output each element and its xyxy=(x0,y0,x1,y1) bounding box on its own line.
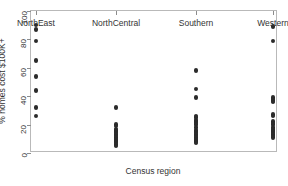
data-point xyxy=(34,114,39,119)
data-point xyxy=(271,135,276,140)
data-point xyxy=(34,39,39,44)
y-axis-title: % homes cost $100K+ xyxy=(0,38,7,123)
data-point xyxy=(194,141,199,146)
data-point xyxy=(271,100,276,105)
x-tick-label: Southern xyxy=(179,18,214,28)
x-tick-label: NorthCentral xyxy=(92,18,140,28)
dotplot-figure: 020406080100 NorthEastNorthCentralSouthe… xyxy=(0,0,288,186)
plot-area: 020406080100 NorthEastNorthCentralSouthe… xyxy=(30,10,277,152)
x-tick-mark xyxy=(36,11,37,15)
data-point xyxy=(271,39,276,44)
data-point xyxy=(194,68,199,73)
data-point xyxy=(114,105,119,110)
y-tick-label: 0 xyxy=(20,153,29,157)
y-tick-label: 80 xyxy=(20,39,29,48)
data-point xyxy=(194,95,199,100)
data-point xyxy=(114,144,119,149)
data-point xyxy=(34,105,39,110)
data-points-layer xyxy=(31,11,276,151)
x-tick-label: Western xyxy=(257,18,288,28)
y-tick-label: 20 xyxy=(20,125,29,134)
x-tick-mark xyxy=(273,11,274,15)
x-axis-title: Census region xyxy=(126,166,181,176)
y-tick-label: 40 xyxy=(20,96,29,105)
x-tick-mark xyxy=(116,11,117,15)
y-tick-label: 60 xyxy=(20,68,29,77)
data-point xyxy=(34,58,39,63)
data-point xyxy=(34,88,39,93)
data-point xyxy=(194,87,199,92)
x-tick-label: NorthEast xyxy=(17,18,55,28)
x-tick-mark xyxy=(196,11,197,15)
data-point xyxy=(271,114,276,119)
data-point xyxy=(34,74,39,79)
